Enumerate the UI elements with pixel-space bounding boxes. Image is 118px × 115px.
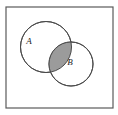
- set-label-a: A: [25, 36, 32, 46]
- venn-diagram-figure: A B: [0, 0, 118, 115]
- set-label-b: B: [67, 57, 73, 67]
- venn-diagram-canvas: A B: [0, 0, 118, 115]
